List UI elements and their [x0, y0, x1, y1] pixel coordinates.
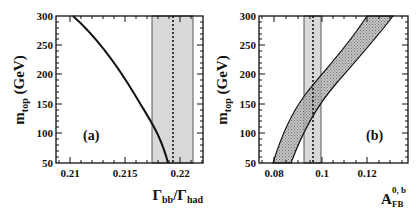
- y-ticks-b: [259, 22, 408, 157]
- y-tick-label-b: 50: [245, 157, 257, 169]
- panel-b: 0.08 0.1 0.12 300 250 200 150 100 50 mto…: [214, 10, 408, 209]
- x-tick-label-b: 0.12: [357, 167, 377, 179]
- panel-label-a: (a): [83, 128, 100, 144]
- x-axis-title-b-sub: FB: [392, 199, 404, 209]
- y-tick-label-a: 200: [37, 68, 54, 80]
- y-tick-label-b: 150: [240, 98, 257, 110]
- y-tick-label-b: 200: [240, 68, 257, 80]
- panel-label-b: (b): [366, 128, 383, 144]
- x-tick-label-a: 0.21: [60, 167, 79, 179]
- y-tick-label-a: 100: [37, 127, 54, 139]
- y-axis-title-a: mtop (GeV): [11, 55, 30, 124]
- x-axis-title-b-main: A: [381, 191, 392, 207]
- y-tick-label-a: 150: [37, 98, 54, 110]
- x-tick-label-a: 0.215: [113, 167, 138, 179]
- y-tick-label-b: 100: [240, 127, 257, 139]
- y-tick-label-b: 300: [240, 10, 257, 22]
- y-axis-title-b: mtop (GeV): [214, 55, 233, 124]
- x-tick-label-b: 0.08: [264, 167, 284, 179]
- y-tick-label-a: 50: [42, 157, 54, 169]
- x-axis-title-b-sup: 0, b: [392, 185, 406, 195]
- x-axis-title-a: Γbb/Γhad: [152, 187, 203, 205]
- y-tick-label-a: 250: [37, 39, 54, 51]
- x-tick-label-b: 0.1: [315, 167, 329, 179]
- figure: 0.21 0.215 0.22 300 250 200 150 100 50 m…: [0, 0, 418, 213]
- y-tick-label-b: 250: [240, 39, 257, 51]
- x-tick-label-a: 0.22: [170, 167, 190, 179]
- y-tick-label-a: 300: [37, 10, 54, 22]
- panel-a: 0.21 0.215 0.22 300 250 200 150 100 50 m…: [11, 10, 203, 205]
